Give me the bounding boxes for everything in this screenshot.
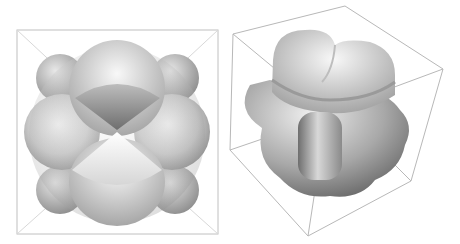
lobed-surface-oblique-view	[245, 30, 409, 197]
left-panel	[17, 30, 218, 234]
right-panel	[230, 6, 443, 236]
figure-canvas	[0, 0, 460, 244]
lobed-surface-front-view	[24, 40, 210, 226]
